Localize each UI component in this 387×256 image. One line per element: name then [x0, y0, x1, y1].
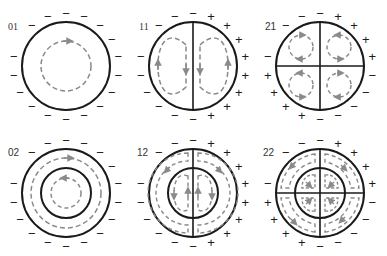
panel-label-01: 01: [8, 21, 18, 32]
plus-charge-icon: +: [298, 235, 306, 250]
panel-label-02: 02: [8, 147, 20, 158]
plus-charge-icon: +: [350, 145, 358, 160]
plus-charge-icon: +: [207, 108, 215, 123]
field-loop-br: [327, 73, 351, 97]
field-loop-inner: [51, 178, 81, 208]
plus-charge-icon: +: [241, 195, 249, 210]
minus-charge-icon: −: [108, 32, 116, 47]
minus-charge-icon: −: [108, 212, 116, 227]
plus-charge-icon: +: [362, 32, 370, 47]
minus-charge-icon: −: [108, 159, 116, 174]
minus-charge-icon: −: [44, 235, 52, 250]
minus-charge-icon: −: [368, 68, 376, 83]
minus-charge-icon: −: [16, 85, 24, 100]
arrow-icon: [330, 200, 334, 204]
plus-charge-icon: +: [223, 18, 231, 33]
arrow-icon: [306, 200, 310, 204]
minus-charge-icon: −: [189, 6, 197, 21]
panel-11: 11 −++++++++−−−−−−−−: [137, 6, 249, 127]
minus-charge-icon: −: [189, 239, 197, 254]
field-loop-inner-tr: [325, 175, 338, 188]
minus-charge-icon: −: [28, 18, 36, 33]
plus-charge-icon: +: [270, 85, 278, 100]
minus-charge-icon: −: [80, 108, 88, 123]
plus-charge-icon: +: [207, 235, 215, 250]
minus-charge-icon: −: [96, 145, 104, 160]
minus-charge-icon: −: [282, 145, 290, 160]
field-loop: [41, 41, 91, 91]
minus-charge-icon: −: [350, 99, 358, 114]
minus-charge-icon: −: [28, 99, 36, 114]
minus-charge-icon: −: [155, 18, 163, 33]
minus-charge-icon: −: [316, 133, 324, 148]
minus-charge-icon: −: [143, 85, 151, 100]
minus-charge-icon: −: [362, 85, 370, 100]
arrow-icon: [341, 165, 345, 169]
minus-charge-icon: −: [44, 108, 52, 123]
charge-signs: −−−−−−−−−−−−−−−−−: [10, 6, 122, 127]
plus-charge-icon: +: [207, 136, 215, 151]
panel-label-11: 11: [139, 21, 149, 32]
plus-charge-icon: +: [298, 108, 306, 123]
minus-charge-icon: −: [114, 195, 122, 210]
minus-charge-icon: −: [137, 68, 145, 83]
field-loop-inner-left: [174, 175, 188, 211]
minus-charge-icon: −: [264, 176, 272, 191]
plus-charge-icon: +: [235, 85, 243, 100]
plus-charge-icon: +: [223, 145, 231, 160]
minus-charge-icon: −: [137, 195, 145, 210]
minus-charge-icon: −: [264, 49, 272, 64]
panel-label-21: 21: [265, 21, 277, 32]
minus-charge-icon: −: [171, 235, 179, 250]
plus-charge-icon: +: [334, 136, 342, 151]
minus-charge-icon: −: [137, 49, 145, 64]
plus-charge-icon: +: [235, 159, 243, 174]
minus-charge-icon: −: [137, 176, 145, 191]
minus-charge-icon: −: [316, 112, 324, 127]
field-loop-right: [200, 38, 228, 94]
minus-charge-icon: −: [334, 235, 342, 250]
plus-charge-icon: +: [207, 9, 215, 24]
minus-charge-icon: −: [16, 212, 24, 227]
plus-charge-icon: +: [350, 18, 358, 33]
plus-charge-icon: +: [270, 212, 278, 227]
field-loop-inner-bl: [302, 198, 315, 211]
plus-charge-icon: +: [264, 195, 272, 210]
minus-charge-icon: −: [143, 212, 151, 227]
plus-charge-icon: +: [264, 68, 272, 83]
plus-charge-icon: +: [241, 49, 249, 64]
panel-12: 12 −++++++++−−−−−−−−: [137, 133, 249, 254]
outer-boundary: [22, 22, 110, 110]
field-loop-inner-right: [198, 175, 212, 211]
minus-charge-icon: −: [96, 226, 104, 241]
minus-charge-icon: −: [10, 68, 18, 83]
plus-charge-icon: +: [241, 176, 249, 191]
plus-charge-icon: +: [235, 32, 243, 47]
arrow-icon: [341, 217, 345, 221]
arrow-icon: [306, 182, 310, 186]
minus-charge-icon: −: [62, 112, 70, 127]
minus-charge-icon: −: [282, 18, 290, 33]
minus-charge-icon: −: [316, 6, 324, 21]
minus-charge-icon: −: [362, 212, 370, 227]
minus-charge-icon: −: [298, 9, 306, 24]
mode-diagram: 01 −−−−−−−−−−−−−−−−− 11 −++++++++−−−−−−−…: [0, 0, 387, 256]
minus-charge-icon: −: [62, 239, 70, 254]
plus-charge-icon: +: [282, 99, 290, 114]
minus-charge-icon: −: [80, 235, 88, 250]
panel-label-12: 12: [137, 147, 149, 158]
panel-02: 02 −−−−−−−−−−−−−−−−−: [8, 133, 122, 254]
minus-charge-icon: −: [80, 9, 88, 24]
minus-charge-icon: −: [10, 49, 18, 64]
field-loop-bl: [289, 73, 313, 97]
minus-charge-icon: −: [28, 145, 36, 160]
minus-charge-icon: −: [44, 9, 52, 24]
minus-charge-icon: −: [114, 68, 122, 83]
minus-charge-icon: −: [155, 145, 163, 160]
minus-charge-icon: −: [114, 176, 122, 191]
plus-charge-icon: +: [235, 212, 243, 227]
field-loop-inner-tl: [302, 175, 315, 188]
charge-signs: −−−−−−−−−−−−−−−−−: [10, 133, 122, 254]
minus-charge-icon: −: [96, 18, 104, 33]
minus-charge-icon: −: [96, 99, 104, 114]
